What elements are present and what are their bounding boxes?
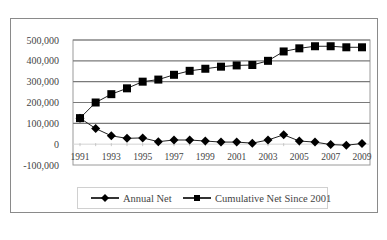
diamond-marker-icon — [123, 134, 132, 143]
y-tick-label: 100,000 — [27, 118, 60, 129]
y-axis-labels: 500,000400,000300,000200,000100,0000-100… — [23, 35, 59, 171]
diamond-marker-icon — [279, 130, 288, 139]
diamond-marker-icon — [326, 140, 335, 149]
square-marker-icon — [107, 90, 115, 98]
square-marker-icon — [217, 63, 225, 71]
square-marker-icon — [92, 99, 100, 107]
diamond-marker-icon — [342, 141, 351, 150]
x-tick-label: 2003 — [259, 152, 278, 162]
diamond-marker-icon — [170, 136, 179, 145]
square-marker-icon — [233, 61, 241, 69]
y-tick-label: 0 — [54, 139, 59, 150]
square-marker-icon — [327, 42, 335, 50]
data-series — [76, 42, 367, 149]
diamond-marker-icon — [185, 136, 194, 145]
x-tick-label: 1993 — [102, 152, 121, 162]
gridlines — [73, 40, 370, 165]
square-marker-icon — [76, 114, 84, 122]
x-tick-label: 1995 — [133, 152, 152, 162]
square-marker-icon — [342, 43, 350, 51]
x-tick-label: 2005 — [290, 152, 309, 162]
diamond-marker-icon — [311, 138, 320, 147]
diamond-marker-icon — [232, 138, 241, 147]
square-marker-icon — [358, 43, 366, 51]
diamond-marker-icon — [248, 139, 257, 148]
square-marker-icon — [186, 67, 194, 75]
x-tick-label: 1999 — [196, 152, 215, 162]
square-marker-icon — [139, 78, 147, 86]
diamond-marker-icon — [91, 124, 100, 133]
x-tick-label: 1997 — [165, 152, 184, 162]
y-tick-label: 200,000 — [27, 97, 60, 108]
diamond-marker-icon — [358, 139, 367, 148]
y-tick-label: 400,000 — [27, 55, 60, 66]
x-tick-label: 2009 — [353, 152, 372, 162]
x-axis-labels: 1991199319951997199920012003200520072009 — [71, 152, 372, 162]
y-tick-label: -100,000 — [23, 160, 59, 171]
square-marker-icon — [311, 42, 319, 50]
diamond-marker-icon — [138, 133, 147, 142]
diamond-marker-icon — [107, 131, 116, 140]
diamond-marker-icon — [217, 138, 226, 147]
square-marker-icon — [248, 61, 256, 69]
square-marker-icon — [280, 47, 288, 55]
diamond-marker-icon — [154, 137, 163, 146]
legend — [77, 187, 328, 209]
square-marker-icon — [201, 65, 209, 73]
square-marker-icon — [154, 76, 162, 84]
square-marker-icon — [123, 84, 131, 92]
x-tick-label: 2007 — [321, 152, 340, 162]
x-tick-label: 1991 — [71, 152, 90, 162]
y-tick-label: 300,000 — [27, 76, 60, 87]
diamond-marker-icon — [264, 136, 273, 145]
square-marker-icon — [170, 71, 178, 79]
x-tick-label: 2001 — [227, 152, 246, 162]
square-marker-icon — [295, 44, 303, 52]
square-marker-icon — [264, 57, 272, 65]
y-tick-label: 500,000 — [27, 35, 60, 46]
